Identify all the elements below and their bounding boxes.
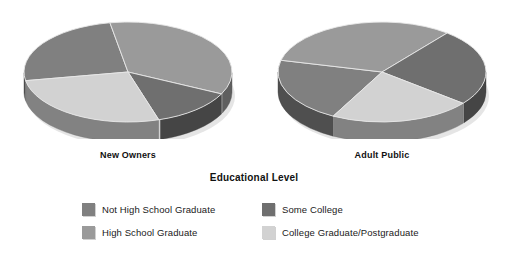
legend-label: Not High School Graduate — [102, 204, 215, 215]
legend-swatch-icon — [82, 226, 95, 239]
legend-swatch-icon — [262, 226, 275, 239]
pie-caption-adult-public: Adult Public — [272, 150, 492, 160]
pie-slice-not-high-school-graduate — [24, 23, 128, 81]
pie-caption-new-owners: New Owners — [18, 150, 238, 160]
educational-level-pie-figure: New Owners Adult Public Educational Leve… — [0, 0, 508, 262]
legend-item-high-school-graduate: High School Graduate — [82, 221, 254, 244]
legend: Not High School Graduate Some College Hi… — [82, 198, 482, 244]
pie-panel-adult-public: Adult Public — [272, 14, 492, 139]
legend-swatch-icon — [82, 203, 95, 216]
legend-item-college-graduate-postgraduate: College Graduate/Postgraduate — [262, 221, 462, 244]
legend-label: Some College — [282, 204, 343, 215]
legend-label: College Graduate/Postgraduate — [282, 227, 419, 238]
legend-item-not-high-school-graduate: Not High School Graduate — [82, 198, 254, 221]
chart-title: Educational Level — [0, 172, 508, 183]
legend-swatch-icon — [262, 203, 275, 216]
legend-item-some-college: Some College — [262, 198, 462, 221]
pie-chart-adult-public — [272, 14, 492, 139]
pie-panel-new-owners: New Owners — [18, 14, 238, 139]
pie-chart-new-owners — [18, 14, 238, 139]
legend-label: High School Graduate — [102, 227, 197, 238]
